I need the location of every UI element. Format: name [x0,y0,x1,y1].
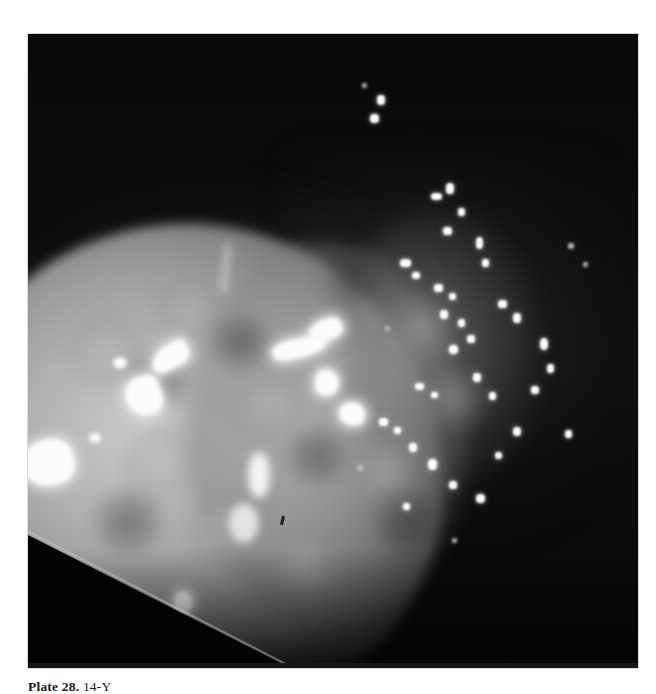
speck [452,538,457,543]
speck [498,300,507,308]
speck [403,503,410,510]
mass-mottle-dark [284,427,351,484]
speck [449,481,457,489]
speck [513,427,521,436]
speck [394,427,401,434]
speck [489,392,496,400]
speck [385,326,390,331]
speck [446,183,454,194]
plate-bottom-strip [28,663,638,668]
plate-caption: Plate 28. 14-Y [28,678,628,694]
speck [449,345,458,354]
speck [379,418,388,426]
speck [476,494,485,503]
caption-rest: 14-Y [83,679,112,694]
speck [565,430,572,438]
speck [434,284,443,292]
speck [412,272,420,279]
speck [428,459,437,470]
speck [513,313,521,323]
caption-lead: Plate 28. [28,679,79,694]
mass-mottle-dark [211,313,272,370]
speck [495,452,502,459]
speck [449,293,456,300]
speck [400,259,411,267]
speck [531,386,539,394]
mass-mottle-dark [321,250,388,307]
speck [409,443,417,452]
speck [458,319,465,327]
speck [431,392,438,398]
speck [458,208,465,216]
speck [476,237,483,249]
mass-mottle-dark [370,490,443,553]
speck [370,114,379,123]
speck [547,364,554,373]
medical-imaging-plate [28,34,638,668]
speck [431,193,442,200]
bright-plume [248,452,270,498]
speck [415,383,424,390]
speck [440,310,448,319]
speck [467,335,475,343]
speck [377,95,385,105]
mass-mottle-dark [89,490,168,553]
book-page: Plate 28. 14-Y [0,0,656,694]
speck [443,227,452,235]
speck [568,243,574,249]
